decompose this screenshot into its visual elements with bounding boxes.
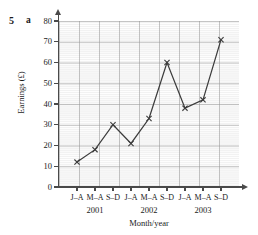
y-tick-mark [54, 124, 58, 125]
x-tick-mark [220, 187, 221, 191]
y-tick-label: 0 [48, 183, 52, 192]
x-tick-mark [184, 187, 185, 191]
y-tick-mark [54, 20, 58, 21]
x-tick-mark [76, 187, 77, 191]
y-tick-label: 70 [44, 37, 53, 46]
plot-area-grid [59, 21, 239, 187]
y-tick-mark [54, 186, 58, 187]
exercise-figure-container: 5 a 01020304050607080 J–AM–AS–DJ–AM–AS–D… [0, 0, 258, 235]
y-axis-arrowhead-icon [55, 9, 61, 15]
x-tick-mark [166, 187, 167, 191]
y-axis-title: Earnings (£) [17, 48, 26, 138]
y-tick-mark [54, 145, 58, 146]
y-axis-line [58, 14, 60, 188]
x-axis-title: Month/year [59, 219, 239, 228]
x-axis-line [58, 186, 244, 188]
y-tick-label: 40 [44, 100, 53, 109]
x-tick-mark [112, 187, 113, 191]
x-tick-label: M–A [87, 193, 104, 202]
x-axis-arrowhead-icon [242, 184, 248, 190]
y-tick-label: 20 [44, 141, 53, 150]
y-tick-mark [54, 83, 58, 84]
x-tick-mark [148, 187, 149, 191]
x-group-label: 2002 [141, 206, 158, 215]
x-tick-label: S–D [160, 193, 174, 202]
x-tick-label: S–D [106, 193, 120, 202]
y-tick-label: 60 [44, 58, 53, 67]
x-tick-mark [130, 187, 131, 191]
y-tick-label: 10 [44, 162, 53, 171]
x-group-label: 2003 [195, 206, 212, 215]
y-tick-mark [54, 166, 58, 167]
line-chart-figure: 01020304050607080 J–AM–AS–DJ–AM–AS–DJ–AM… [0, 0, 258, 235]
y-tick-label: 30 [44, 120, 53, 129]
x-tick-label: M–A [141, 193, 158, 202]
y-tick-mark [54, 103, 58, 104]
x-tick-label: J–A [71, 193, 84, 202]
y-tick-label: 50 [44, 79, 53, 88]
x-tick-label: J–A [125, 193, 138, 202]
x-tick-label: S–D [214, 193, 228, 202]
x-tick-mark [94, 187, 95, 191]
x-group-label: 2001 [87, 206, 104, 215]
x-tick-label: M–A [195, 193, 212, 202]
y-tick-mark [54, 62, 58, 63]
y-tick-label: 80 [44, 17, 53, 26]
y-tick-mark [54, 41, 58, 42]
x-tick-mark [202, 187, 203, 191]
x-tick-label: J–A [179, 193, 192, 202]
